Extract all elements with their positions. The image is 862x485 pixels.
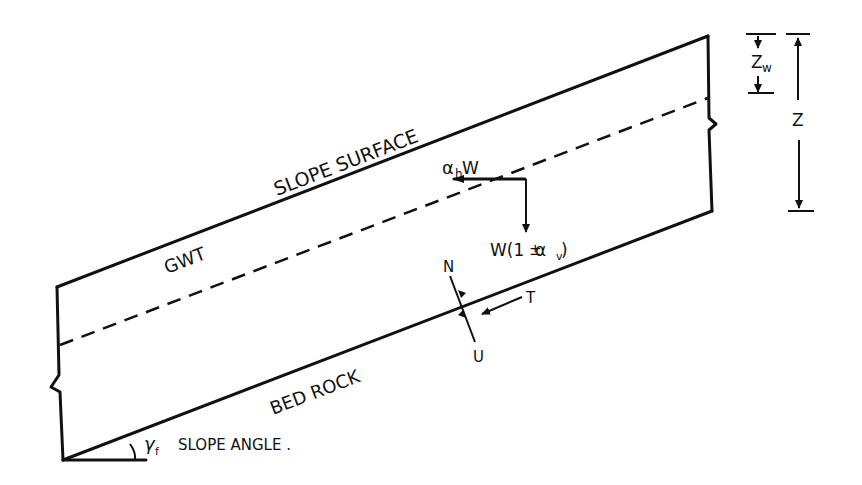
gwt-label: GWT: [161, 242, 209, 277]
right-boundary-break: [708, 36, 716, 211]
bed-rock-label: BED ROCK: [267, 365, 364, 419]
depth-z-label: Z: [792, 110, 804, 130]
vertical-force-alpha: α: [535, 240, 546, 260]
slope-diagram: SLOPE SURFACE GWT BED ROCK γ f SLOPE ANG…: [0, 0, 862, 485]
normal-arrow-icon: [458, 290, 466, 298]
horizontal-force-alpha: α: [442, 157, 454, 178]
left-boundary-break: [51, 287, 63, 460]
water-depth-label: Z: [751, 52, 763, 72]
pore-pressure-label: U: [473, 348, 484, 366]
vertical-force-close: ): [561, 240, 568, 260]
slope-surface-label: SLOPE SURFACE: [271, 124, 421, 199]
slope-angle-label: SLOPE ANGLE .: [178, 436, 291, 454]
vertical-force-prefix: W(1: [490, 240, 524, 260]
slope-angle-arc: [130, 444, 135, 460]
normal-force-label: N: [443, 258, 454, 276]
shear-force-label: T: [525, 289, 536, 307]
shear-force-arrow: [482, 297, 522, 314]
slope-angle-subscript: f: [155, 445, 160, 458]
horizontal-force-w: W: [462, 158, 479, 178]
water-depth-subscript: w: [762, 61, 772, 75]
